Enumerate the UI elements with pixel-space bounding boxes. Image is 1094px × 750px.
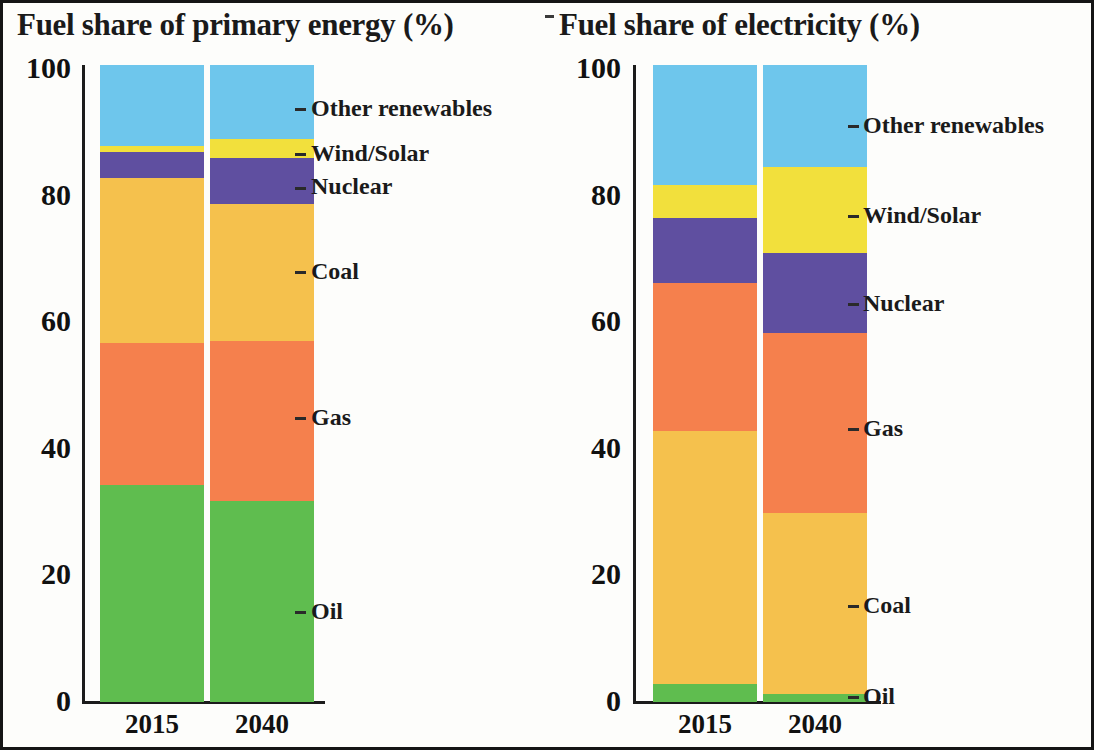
leader-line-gas [295, 417, 306, 420]
x-label-2015: 2015 [645, 709, 765, 740]
bar-2015[interactable] [100, 65, 204, 702]
segment-nuclear [763, 253, 867, 333]
legend-label-oil: Oil [863, 684, 895, 708]
leader-line-coal [295, 271, 306, 274]
bar-2015[interactable] [653, 65, 757, 702]
legend-label-nuclear: Nuclear [311, 174, 392, 198]
x-label-2015: 2015 [92, 709, 212, 740]
leader-line-nuclear [848, 303, 859, 306]
y-tick-80: 80 [555, 180, 621, 210]
y-tick-20: 20 [555, 559, 621, 589]
segment-wind-solar [763, 167, 867, 253]
segment-gas [763, 333, 867, 513]
legend-label-wind-solar: Wind/Solar [863, 203, 981, 227]
y-tick-40: 40 [555, 433, 621, 463]
segment-nuclear [100, 152, 204, 178]
chart-primary-energy: Fuel share of primary energy (%) 100 80 … [3, 3, 551, 750]
legend-label-other-renewables: Other renewables [863, 113, 1044, 137]
segment-oil [653, 684, 757, 702]
segment-gas [210, 341, 314, 501]
legend-label-gas: Gas [311, 405, 351, 429]
leader-line-oil [295, 611, 306, 614]
legend-label-oil: Oil [311, 599, 343, 623]
segment-wind-solar [653, 185, 757, 218]
legend-label-gas: Gas [863, 416, 903, 440]
segment-other-renewables [653, 65, 757, 185]
segment-oil [210, 501, 314, 702]
segment-other-renewables [100, 65, 204, 146]
y-tick-0: 0 [555, 686, 621, 716]
y-tick-60: 60 [555, 306, 621, 336]
leader-line-wind-solar [848, 215, 859, 218]
legend-label-wind-solar: Wind/Solar [311, 141, 429, 165]
y-tick-20: 20 [5, 559, 71, 589]
figure-page: Fuel share of primary energy (%) 100 80 … [0, 0, 1094, 750]
segment-oil [100, 485, 204, 702]
y-tick-0: 0 [5, 686, 71, 716]
y-tick-100: 100 [555, 53, 621, 83]
leader-line-other-renewables [848, 125, 859, 128]
x-label-2040: 2040 [755, 709, 875, 740]
segment-coal [763, 513, 867, 694]
plot-area-primary-energy: 100 80 60 40 20 0 [3, 3, 551, 750]
segment-nuclear [653, 218, 757, 283]
legend-label-nuclear: Nuclear [863, 291, 944, 315]
legend-label-other-renewables: Other renewables [311, 96, 492, 120]
y-tick-100: 100 [5, 53, 71, 83]
leader-line-other-renewables [295, 108, 306, 111]
legend-label-coal: Coal [863, 593, 911, 617]
y-tick-60: 60 [5, 306, 71, 336]
bar-2040[interactable] [210, 65, 314, 702]
leader-line-coal [848, 605, 859, 608]
leader-line-oil [848, 696, 859, 699]
y-tick-40: 40 [5, 433, 71, 463]
segment-nuclear [210, 158, 314, 204]
y-tick-80: 80 [5, 180, 71, 210]
segment-coal [100, 178, 204, 343]
leader-line-nuclear [295, 187, 306, 190]
plot-area-electricity: 100 80 60 40 20 0 [543, 3, 1094, 750]
leader-line-gas [848, 428, 859, 431]
segment-coal [653, 431, 757, 684]
segment-gas [653, 283, 757, 431]
segment-other-renewables [763, 65, 867, 167]
leader-line-wind-solar [295, 153, 306, 156]
legend-label-coal: Coal [311, 259, 359, 283]
chart-electricity: Fuel share of electricity (%) 100 80 60 … [543, 3, 1094, 750]
segment-gas [100, 343, 204, 485]
y-axis-line [633, 65, 636, 704]
segment-other-renewables [210, 65, 314, 139]
y-axis-line [82, 65, 85, 704]
x-label-2040: 2040 [202, 709, 322, 740]
